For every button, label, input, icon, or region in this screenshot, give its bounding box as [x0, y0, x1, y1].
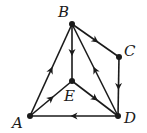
edges	[30, 24, 122, 120]
node-label-A: A	[10, 114, 23, 132]
node-label-E: E	[63, 87, 75, 105]
node-label-C: C	[124, 42, 136, 60]
node-B	[69, 21, 75, 27]
arrow-icon	[91, 36, 99, 43]
node-C	[116, 54, 122, 60]
node-D	[115, 113, 121, 119]
node-E	[69, 78, 75, 84]
node-label-B: B	[57, 3, 69, 21]
directed-graph: ABCDE	[0, 0, 147, 133]
node-label-D: D	[123, 109, 136, 127]
node-A	[27, 113, 33, 119]
